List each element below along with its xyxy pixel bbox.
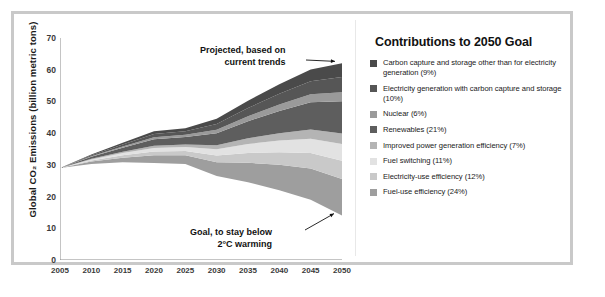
legend-items: Carbon capture and storage other than fo…	[370, 58, 570, 203]
legend-swatch-icon	[370, 158, 377, 165]
legend-swatch-icon	[370, 189, 377, 196]
panel-divider	[355, 20, 356, 256]
legend-title: Contributions to 2050 Goal	[375, 35, 532, 49]
x-tick-label: 2040	[270, 266, 288, 275]
y-tick-label: 40	[38, 128, 56, 138]
annotation-arrow-projected	[306, 59, 335, 63]
x-tick-label: 2005	[51, 266, 69, 275]
legend-item-label: Carbon capture and storage other than fo…	[383, 58, 570, 78]
x-tick-label: 2020	[145, 266, 163, 275]
figure-frame: Global CO₂ Emissions (billion metric ton…	[11, 11, 573, 265]
legend-item: Electricity-use efficiency (12%)	[370, 172, 570, 182]
y-axis-ticks: 010203040506070	[36, 38, 56, 260]
legend-item-label: Electricity-use efficiency (12%)	[383, 172, 485, 182]
annotation-arrow-goal	[305, 214, 334, 230]
y-tick-label: 70	[38, 33, 56, 43]
legend-swatch-icon	[370, 142, 377, 149]
legend-swatch-icon	[370, 111, 377, 118]
annotation-goal: Goal, to stay below 2°C warming	[190, 227, 272, 251]
annotation-goal-line1: Goal, to stay below	[190, 227, 272, 237]
x-tick-label: 2035	[239, 266, 257, 275]
legend-item: Fuel switching (11%)	[370, 156, 570, 166]
legend-item: Electricity generation with carbon captu…	[370, 84, 570, 104]
chart-area: Global CO₂ Emissions (billion metric ton…	[14, 14, 354, 262]
annotation-goal-line2: 2°C warming	[217, 239, 272, 249]
y-tick-label: 30	[38, 160, 56, 170]
x-tick-label: 2045	[302, 266, 320, 275]
annotation-projected: Projected, based on current trends	[200, 45, 286, 69]
legend-panel: Contributions to 2050 Goal Carbon captur…	[362, 14, 570, 262]
legend-item: Nuclear (6%)	[370, 109, 570, 119]
y-tick-label: 20	[38, 192, 56, 202]
legend-item-label: Nuclear (6%)	[383, 109, 427, 119]
legend-item-label: Fuel switching (11%)	[383, 156, 452, 166]
y-tick-label: 10	[38, 223, 56, 233]
x-tick-label: 2015	[114, 266, 132, 275]
x-tick-label: 2050	[333, 266, 351, 275]
legend-item-label: Renewables (21%)	[383, 125, 446, 135]
x-axis-ticks: 2005201020152020202520302035204020452050	[60, 264, 342, 278]
legend-item: Improved power generation efficiency (7%…	[370, 141, 570, 151]
x-tick-label: 2025	[176, 266, 194, 275]
legend-item: Fuel-use efficiency (24%)	[370, 187, 570, 197]
legend-swatch-icon	[370, 60, 377, 67]
y-tick-label: 0	[38, 255, 56, 265]
legend-item-label: Electricity generation with carbon captu…	[383, 84, 570, 104]
legend-item: Carbon capture and storage other than fo…	[370, 58, 570, 78]
x-tick-label: 2030	[208, 266, 226, 275]
legend-item-label: Improved power generation efficiency (7%…	[383, 141, 525, 151]
annotation-projected-line2: current trends	[225, 57, 286, 67]
y-tick-label: 50	[38, 96, 56, 106]
annotation-projected-line1: Projected, based on	[200, 45, 286, 55]
y-tick-label: 60	[38, 65, 56, 75]
legend-item: Renewables (21%)	[370, 125, 570, 135]
legend-item-label: Fuel-use efficiency (24%)	[383, 187, 467, 197]
legend-swatch-icon	[370, 85, 377, 92]
legend-swatch-icon	[370, 126, 377, 133]
legend-swatch-icon	[370, 173, 377, 180]
x-tick-label: 2010	[82, 266, 100, 275]
figure-inner: Global CO₂ Emissions (billion metric ton…	[14, 14, 570, 262]
